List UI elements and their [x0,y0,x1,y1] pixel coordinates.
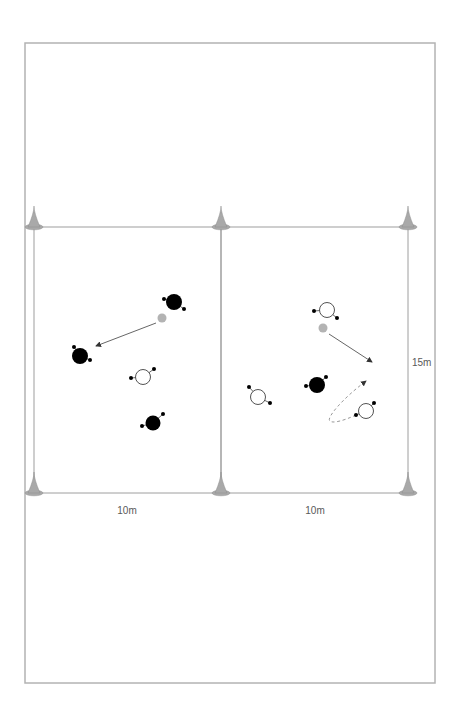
cone-marker [212,206,230,230]
cone-marker [399,206,417,230]
cone-marker [25,206,43,230]
cone-marker [25,472,43,496]
drill-diagram: 10m10m15m [0,0,461,715]
left-width-label: 10m [117,505,136,516]
left-pass-arrow [96,323,156,346]
outer-border [25,43,435,683]
right-pass-arrow [329,334,372,362]
player-light-marker [312,303,339,321]
cone-marker [399,472,417,496]
player-dark-marker [140,412,165,431]
ball-marker [158,314,167,323]
right-width-label: 10m [305,505,324,516]
player-light-marker [129,367,156,385]
right-grid [221,227,408,493]
height-label: 15m [412,357,431,368]
player-light-marker [247,385,272,405]
player-light-marker [354,401,376,419]
cone-marker [212,472,230,496]
ball-marker [319,324,328,333]
player-dark-marker [304,375,328,393]
player-dark-marker [72,345,92,364]
player-dark-marker [162,294,186,311]
left-grid [34,227,221,493]
drill-figure: 10m10m15m [0,0,461,715]
